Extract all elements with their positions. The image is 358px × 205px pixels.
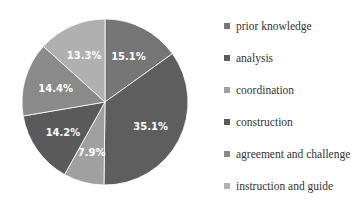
slice-label: 35.1% xyxy=(133,121,168,132)
legend-item: coordination xyxy=(224,74,350,106)
legend-swatch xyxy=(224,151,230,157)
legend-item: analysis xyxy=(224,42,350,74)
slice-label: 13.3% xyxy=(67,50,102,61)
legend-swatch xyxy=(224,23,230,29)
pie-chart: 15.1%35.1%7.9%14.2%14.4%13.3% xyxy=(0,0,215,205)
slice-label: 15.1% xyxy=(111,51,146,62)
legend-item: instruction and guide xyxy=(224,170,350,202)
legend-label: prior knowledge xyxy=(236,20,312,32)
legend-label: analysis xyxy=(236,52,273,64)
legend-swatch xyxy=(224,87,230,93)
legend-swatch xyxy=(224,119,230,125)
legend-swatch xyxy=(224,55,230,61)
legend-item: construction xyxy=(224,106,350,138)
legend-item: prior knowledge xyxy=(224,10,350,42)
legend-label: construction xyxy=(236,116,293,128)
legend-item: agreement and challenge xyxy=(224,138,350,170)
slice-label: 14.2% xyxy=(46,127,81,138)
legend-label: instruction and guide xyxy=(236,180,333,192)
slice-label: 14.4% xyxy=(38,83,73,94)
legend-label: agreement and challenge xyxy=(236,148,350,160)
legend-swatch xyxy=(224,183,230,189)
legend-label: coordination xyxy=(236,84,294,96)
legend: prior knowledgeanalysiscoordinationconst… xyxy=(224,10,350,202)
slice-label: 7.9% xyxy=(78,147,106,158)
